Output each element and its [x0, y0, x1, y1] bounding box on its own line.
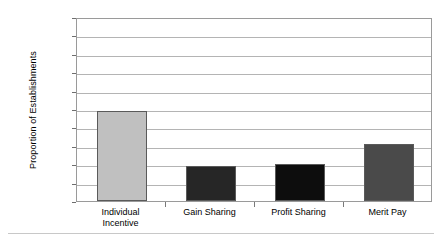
y-tick-mark	[72, 128, 76, 129]
y-tick-mark	[72, 184, 76, 185]
y-tick-mark	[72, 165, 76, 166]
x-label-line: Merit Pay	[333, 207, 442, 218]
y-tick-mark	[72, 110, 76, 111]
y-tick-mark	[72, 55, 76, 56]
bar-merit-pay	[364, 144, 414, 201]
plot-area	[76, 18, 432, 202]
bar-chart-figure: Proportion of Establishments 10090807060…	[0, 0, 442, 245]
y-tick-mark	[72, 18, 76, 19]
gridline	[77, 93, 431, 94]
bar-individual-incentive	[97, 111, 147, 201]
x-axis-category-label: Merit Pay	[333, 207, 442, 218]
y-tick-mark	[72, 147, 76, 148]
bar-profit-sharing	[275, 164, 325, 201]
y-tick-mark	[72, 36, 76, 37]
y-axis-title: Proportion of Establishments	[28, 15, 38, 205]
y-tick-mark	[72, 202, 76, 203]
y-tick-mark	[72, 92, 76, 93]
y-tick-mark	[72, 73, 76, 74]
x-label-line: Incentive	[66, 218, 176, 229]
gridline	[77, 56, 431, 57]
gridline	[77, 37, 431, 38]
bar-gain-sharing	[186, 166, 236, 201]
gridline	[77, 74, 431, 75]
bottom-divider	[8, 233, 434, 234]
